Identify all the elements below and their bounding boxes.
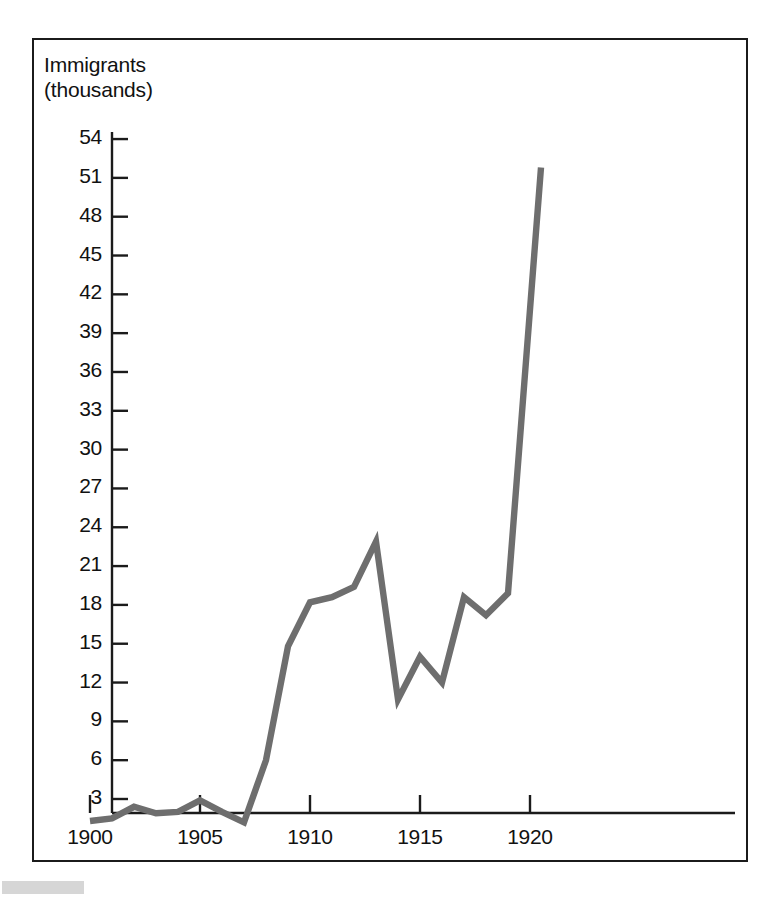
chart-frame [32, 38, 748, 862]
x-tick-label: 1910 [275, 825, 345, 849]
y-tick-label: 39 [56, 319, 102, 343]
y-tick-label: 33 [56, 397, 102, 421]
y-tick-label: 51 [56, 164, 102, 188]
y-tick-label: 54 [56, 125, 102, 149]
y-tick-label: 15 [56, 630, 102, 654]
y-tick-label: 45 [56, 242, 102, 266]
y-tick-label: 30 [56, 436, 102, 460]
x-tick-label: 1900 [55, 825, 125, 849]
scan-artifact-bar [2, 881, 84, 894]
y-tick-label: 3 [56, 785, 102, 809]
y-tick-label: 42 [56, 280, 102, 304]
y-tick-label: 27 [56, 474, 102, 498]
x-tick-label: 1920 [495, 825, 565, 849]
y-axis-title: Immigrants (thousands) [44, 52, 153, 102]
y-tick-label: 36 [56, 358, 102, 382]
x-tick-label: 1915 [385, 825, 455, 849]
x-tick-label: 1905 [165, 825, 235, 849]
y-tick-label: 24 [56, 513, 102, 537]
y-tick-label: 6 [56, 746, 102, 770]
y-tick-label: 21 [56, 552, 102, 576]
y-tick-label: 48 [56, 203, 102, 227]
y-tick-label: 12 [56, 669, 102, 693]
y-tick-label: 9 [56, 707, 102, 731]
y-tick-label: 18 [56, 591, 102, 615]
